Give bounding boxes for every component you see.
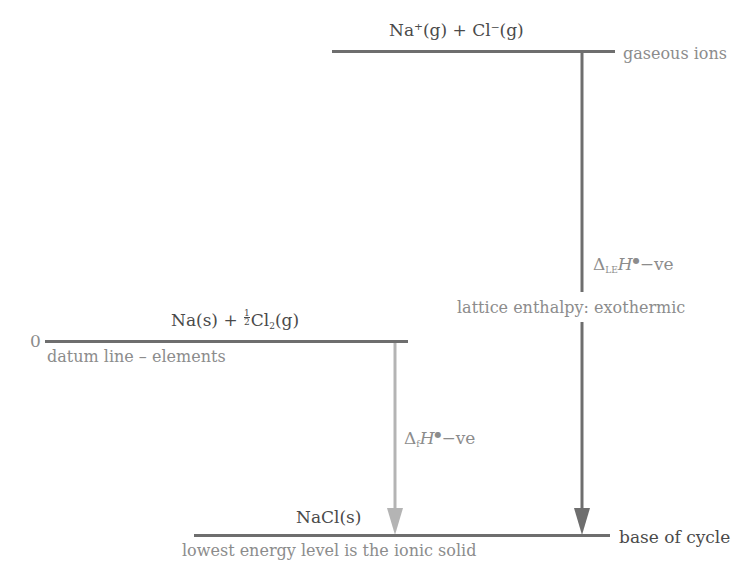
arrows-layer xyxy=(0,0,754,574)
species-suffix: (g) xyxy=(275,310,299,330)
datum-level-line xyxy=(45,340,408,343)
delta-symbol: Δ xyxy=(593,254,605,274)
zero-energy-label: 0 xyxy=(30,331,41,351)
gaseous-ions-species: Na⁺(g) + Cl⁻(g) xyxy=(389,20,524,40)
enthalpy-symbol: H xyxy=(618,254,633,274)
lattice-enthalpy-arrow xyxy=(574,52,590,535)
lattice-subscript: LE xyxy=(605,265,618,275)
sign-label: −ve xyxy=(441,428,475,448)
formation-enthalpy-symbol: ΔfH●−ve xyxy=(404,428,475,449)
chlorine-symbol: Cl xyxy=(251,310,269,330)
enthalpy-symbol: H xyxy=(420,428,435,448)
datum-line-label: datum line – elements xyxy=(47,347,226,366)
formation-enthalpy-arrow xyxy=(387,342,403,535)
ionic-solid-label: lowest energy level is the ionic solid xyxy=(182,541,476,560)
gaseous-ions-level-line xyxy=(332,50,615,53)
one-half-fraction: 12 xyxy=(244,309,250,326)
base-of-cycle-label: base of cycle xyxy=(619,527,730,547)
sign-label: −ve xyxy=(640,254,674,274)
delta-symbol: Δ xyxy=(404,428,416,448)
gaseous-ions-label: gaseous ions xyxy=(623,44,727,63)
lattice-enthalpy-caption: lattice enthalpy: exothermic xyxy=(457,298,685,317)
ionic-solid-species: NaCl(s) xyxy=(296,507,361,527)
standard-state-icon: ● xyxy=(633,256,640,265)
species-prefix: Na(s) + xyxy=(171,310,243,330)
elements-species: Na(s) + 12Cl2(g) xyxy=(171,309,299,331)
fraction-denominator: 2 xyxy=(244,318,250,326)
lattice-enthalpy-symbol: ΔLEH●−ve xyxy=(593,254,674,275)
base-level-line xyxy=(194,534,610,537)
